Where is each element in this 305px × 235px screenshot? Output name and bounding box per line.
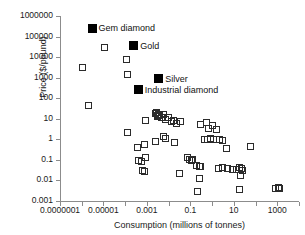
data-point bbox=[141, 141, 148, 148]
x-axis-title: Consumption (millions of tonnes) bbox=[60, 220, 299, 230]
y-tick-mark bbox=[56, 37, 60, 38]
plot-area: Gem diamondGoldSilverIndustrial diamond bbox=[60, 16, 299, 201]
y-tick-label: 100000 bbox=[0, 32, 53, 41]
y-tick-label: 1000 bbox=[0, 73, 53, 82]
data-point bbox=[124, 129, 131, 136]
data-point-label: Silver bbox=[165, 74, 188, 84]
y-tick-label: 0.01 bbox=[0, 175, 53, 184]
data-point bbox=[124, 71, 131, 78]
data-point bbox=[142, 154, 149, 161]
data-point bbox=[152, 138, 159, 145]
data-point bbox=[196, 175, 203, 182]
scatter-chart: Price ($/pound) Consumption (millions of… bbox=[0, 0, 305, 235]
data-point bbox=[194, 188, 201, 195]
y-tick-label: 0.001 bbox=[0, 196, 53, 205]
data-point-label: Industrial diamond bbox=[145, 85, 219, 95]
data-point-labeled bbox=[154, 74, 163, 83]
data-point-labeled bbox=[129, 41, 138, 50]
data-point bbox=[79, 64, 86, 71]
data-point bbox=[219, 137, 226, 144]
x-tick-label: 1000 bbox=[237, 206, 305, 215]
data-point bbox=[142, 117, 149, 124]
y-tick-label: 100 bbox=[0, 93, 53, 102]
y-tick-mark bbox=[56, 98, 60, 99]
data-point bbox=[101, 44, 108, 51]
data-point bbox=[141, 168, 148, 175]
data-point bbox=[247, 143, 254, 150]
data-point bbox=[85, 102, 92, 109]
x-axis-line bbox=[60, 201, 299, 202]
data-point-labeled bbox=[134, 85, 143, 94]
y-tick-label: 0.1 bbox=[0, 155, 53, 164]
y-tick-mark bbox=[56, 180, 60, 181]
data-point bbox=[171, 139, 178, 146]
y-tick-mark bbox=[56, 160, 60, 161]
data-point-label: Gold bbox=[140, 41, 159, 51]
y-tick-mark bbox=[56, 139, 60, 140]
y-tick-label: 10 bbox=[0, 114, 53, 123]
data-point bbox=[236, 186, 243, 193]
y-tick-mark bbox=[56, 16, 60, 17]
y-tick-mark bbox=[56, 57, 60, 58]
data-point bbox=[276, 185, 283, 192]
data-point bbox=[237, 172, 244, 179]
data-point-labeled bbox=[88, 24, 97, 33]
y-tick-label: 1000000 bbox=[0, 11, 53, 20]
data-point bbox=[123, 56, 130, 63]
data-point bbox=[162, 135, 169, 142]
data-point bbox=[213, 126, 220, 133]
data-point bbox=[197, 163, 204, 170]
data-point bbox=[134, 144, 141, 151]
y-tick-mark bbox=[56, 119, 60, 120]
data-point bbox=[177, 118, 184, 125]
data-point bbox=[223, 145, 230, 152]
data-point-label: Gem diamond bbox=[99, 23, 156, 33]
y-tick-label: 1 bbox=[0, 134, 53, 143]
y-tick-mark bbox=[56, 78, 60, 79]
y-tick-label: 10000 bbox=[0, 52, 53, 61]
data-point bbox=[176, 170, 183, 177]
